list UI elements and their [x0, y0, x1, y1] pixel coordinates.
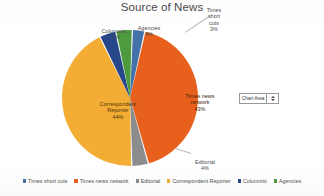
- legend-item-label: Agencies: [279, 178, 301, 184]
- legend-item[interactable]: Columnist: [238, 178, 267, 184]
- data-label-text: Times short cuts: [207, 7, 222, 26]
- data-label-times-short-cuts: Times short cuts 3%: [196, 0, 232, 40]
- legend-swatch-icon: [274, 179, 277, 182]
- data-label-text: Times news network: [185, 93, 214, 106]
- data-label-percent: 43%: [172, 106, 228, 113]
- pie-chart-graphic[interactable]: Source of News Times short cuts 3% Agenc…: [0, 0, 324, 196]
- chart-area-selector[interactable]: Chart Area: [239, 93, 279, 104]
- chart-area-stepper[interactable]: [267, 94, 278, 103]
- data-label-text: Agencies: [138, 25, 161, 31]
- legend-item[interactable]: Times short cuts: [23, 178, 68, 184]
- data-label-columnist: Columnist... 4%: [95, 21, 137, 47]
- legend-swatch-icon: [136, 179, 139, 182]
- data-label-text: Editorial: [195, 159, 215, 165]
- legend-swatch-icon: [74, 179, 77, 182]
- legend-item-label: Editorial: [141, 178, 160, 184]
- data-label-percent: 44%: [82, 114, 154, 121]
- legend-item-label: Times short cuts: [28, 178, 67, 184]
- chart-area-label: Chart Area: [240, 94, 266, 103]
- legend-swatch-icon: [23, 179, 26, 182]
- legend-item[interactable]: Agencies: [274, 178, 301, 184]
- data-label-percent: 3%: [196, 26, 232, 33]
- legend-swatch-icon: [167, 179, 170, 182]
- data-label-text: Correspondent Reporter: [100, 101, 136, 114]
- legend-item[interactable]: Editorial: [136, 178, 161, 184]
- data-label-correspondent-reporter: Correspondent Reporter 44%: [82, 94, 154, 127]
- chart-legend: Times short cutsTimes news networkEditor…: [0, 178, 324, 184]
- caret-up-icon[interactable]: [271, 96, 275, 98]
- legend-item[interactable]: Times news network: [74, 178, 128, 184]
- data-label-times-news-network: Times news network 43%: [172, 86, 228, 119]
- chart-title: Source of News: [0, 1, 324, 13]
- legend-item-label: Correspondent Reporter: [172, 178, 230, 184]
- legend-swatch-icon: [238, 179, 241, 182]
- data-label-percent: 4%: [95, 34, 137, 41]
- data-label-text: Columnist...: [101, 28, 130, 34]
- legend-item-label: Times news network: [80, 178, 129, 184]
- legend-item[interactable]: Correspondent Reporter: [167, 178, 230, 184]
- data-label-editorial: Editorial 4%: [180, 152, 230, 178]
- legend-item-label: Columnist: [243, 178, 267, 184]
- data-label-percent: 4%: [180, 165, 230, 172]
- caret-down-icon[interactable]: [271, 99, 275, 101]
